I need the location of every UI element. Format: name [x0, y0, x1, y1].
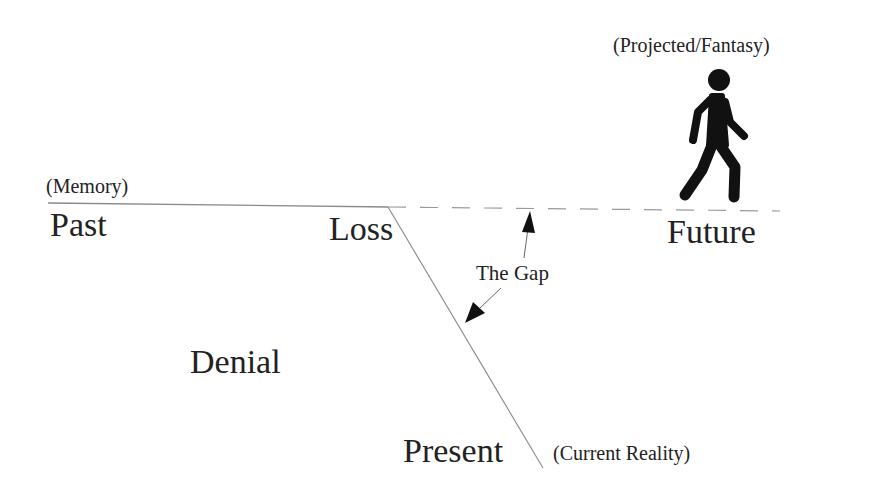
future-label: Future — [667, 215, 756, 249]
present-label: Present — [403, 434, 503, 468]
current-reality-label: (Current Reality) — [553, 443, 690, 463]
the-gap-label: The Gap — [476, 263, 549, 284]
loss-to-present-line — [388, 207, 543, 468]
walking-person-icon — [685, 69, 744, 197]
memory-label: (Memory) — [46, 176, 128, 196]
future-timeline-line — [388, 207, 780, 211]
loss-label: Loss — [329, 212, 393, 246]
projected-fantasy-label: (Projected/Fantasy) — [613, 35, 770, 55]
denial-label: Denial — [190, 345, 281, 379]
past-label: Past — [50, 208, 107, 242]
gap-arrow-down — [465, 288, 501, 323]
gap-arrow-up — [522, 211, 535, 258]
